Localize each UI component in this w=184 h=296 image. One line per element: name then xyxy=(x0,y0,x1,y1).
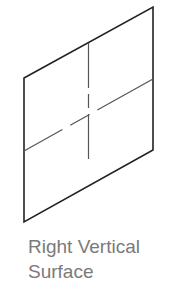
right-vertical-surface-diagram xyxy=(0,0,184,230)
caption-line-1: Right Vertical xyxy=(28,234,184,259)
caption-line-2: Surface xyxy=(28,259,184,284)
diagram-caption: Right Vertical Surface xyxy=(28,234,184,284)
